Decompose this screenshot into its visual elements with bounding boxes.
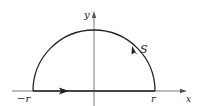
left-endpoint-label: −r [17,93,31,104]
contour-diagram: y x S −r r [0,0,198,106]
x-axis-arrowhead-icon [180,89,187,93]
x-axis-label: x [186,94,191,104]
y-axis-arrowhead-icon [92,11,96,18]
y-axis-label: y [83,9,90,20]
arc-label-S: S [140,43,148,56]
right-endpoint-label: r [151,93,157,104]
